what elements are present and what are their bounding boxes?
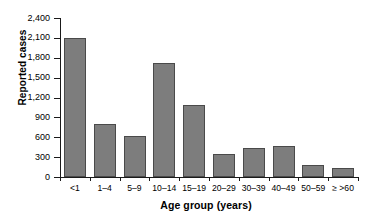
- x-tick-mark: [179, 177, 180, 181]
- bar: [213, 154, 235, 177]
- y-tick-label: 1,500: [6, 73, 50, 82]
- x-tick-mark: [358, 177, 359, 181]
- x-axis-title: Age group (years): [56, 199, 356, 211]
- x-tick-mark: [269, 177, 270, 181]
- y-tick-label: 2,400: [6, 14, 50, 23]
- y-tick-label: 600: [6, 133, 50, 142]
- x-tick-mark: [209, 177, 210, 181]
- y-tick-label: 900: [6, 113, 50, 122]
- x-tick-mark: [298, 177, 299, 181]
- x-tick-mark: [60, 177, 61, 181]
- bar: [302, 165, 324, 177]
- x-tick-mark: [120, 177, 121, 181]
- y-tick-label: 1,200: [6, 93, 50, 102]
- plot-area: [60, 18, 358, 177]
- bar: [183, 105, 205, 177]
- y-tick-label: 2,100: [6, 33, 50, 42]
- x-tick-mark: [328, 177, 329, 181]
- bar: [64, 38, 86, 177]
- bar: [153, 63, 175, 177]
- bar: [243, 148, 265, 177]
- x-tick-mark: [90, 177, 91, 181]
- x-tick-mark: [149, 177, 150, 181]
- x-tick-mark: [239, 177, 240, 181]
- y-tick-label: 0: [6, 173, 50, 182]
- bar: [124, 136, 146, 177]
- bar: [332, 168, 354, 177]
- bar: [94, 124, 116, 177]
- x-tick-label: ≥ >60: [323, 183, 363, 193]
- bar: [273, 146, 295, 177]
- y-tick-label: 300: [6, 153, 50, 162]
- y-tick-label: 1,800: [6, 53, 50, 62]
- bar-chart-figure: Reported cases 03006009001,2001,5001,800…: [0, 0, 368, 223]
